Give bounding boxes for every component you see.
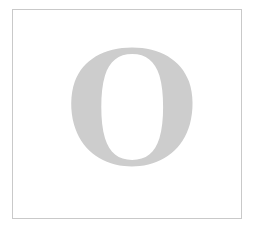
- letter-card-frame: O: [12, 9, 242, 219]
- letter-o-icon: [69, 45, 195, 177]
- screenshot-canvas: O: [0, 0, 261, 231]
- letter-o-label: O: [13, 10, 14, 11]
- glyph-stage: O: [13, 10, 241, 218]
- letter-o-outline: [71, 47, 192, 166]
